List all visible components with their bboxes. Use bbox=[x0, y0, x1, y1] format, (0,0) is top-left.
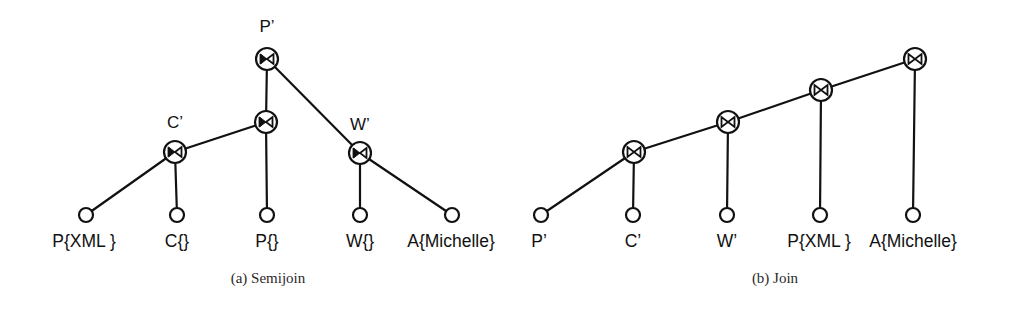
node-p-prime[interactable] bbox=[256, 48, 278, 70]
leaf-label-a-michelle: A{Michelle} bbox=[407, 231, 495, 251]
leaf-p-prime[interactable] bbox=[534, 208, 548, 222]
edge-pprime-to-wprime bbox=[267, 59, 360, 153]
leaf-a-michelle[interactable] bbox=[445, 208, 459, 222]
edge-jointop-to-a-michelle bbox=[913, 59, 915, 215]
leaf-label-c-empty: C{} bbox=[165, 231, 189, 251]
caption-semijoin: (a) Semijoin bbox=[231, 270, 306, 287]
leaf-label-c-prime: C’ bbox=[625, 231, 642, 251]
edge-join1-to-p-prime bbox=[541, 152, 634, 215]
edge-join2-to-join1 bbox=[634, 122, 728, 152]
leaf-w-empty[interactable] bbox=[353, 208, 367, 222]
node-label-p-prime: P’ bbox=[259, 17, 274, 36]
edge-join3-to-join2 bbox=[728, 90, 821, 122]
panel-semijoin-leaf-labels: P{XML } C{} P{} W{} A{Michelle} bbox=[52, 231, 495, 251]
caption-join: (b) Join bbox=[752, 270, 799, 287]
edge-cprime-to-p-xml bbox=[86, 152, 175, 215]
node-label-c-prime: C’ bbox=[167, 113, 183, 132]
node-join-2[interactable] bbox=[717, 111, 739, 133]
panel-join-edges bbox=[541, 59, 915, 215]
leaf-label-w-empty: W{} bbox=[346, 231, 374, 251]
leaf-c-prime[interactable] bbox=[626, 208, 640, 222]
panel-semijoin: P’ C’ W’ P{XML } C{} P{} W{} A{Michelle}… bbox=[52, 17, 495, 287]
leaf-label-a-michelle-b: A{Michelle} bbox=[869, 231, 957, 251]
leaf-p-empty[interactable] bbox=[260, 208, 274, 222]
panel-join-leaves bbox=[534, 208, 920, 222]
leaf-p-xml-b[interactable] bbox=[813, 208, 827, 222]
edge-join3-to-p-xml bbox=[820, 90, 821, 215]
leaf-w-prime[interactable] bbox=[720, 208, 734, 222]
edge-wprime-to-a-michelle bbox=[360, 153, 452, 215]
panel-semijoin-leaves bbox=[79, 208, 459, 222]
edge-mid-to-cprime bbox=[175, 122, 266, 152]
node-w-prime[interactable] bbox=[349, 142, 371, 164]
panel-semijoin-operators bbox=[164, 48, 371, 164]
node-join-top[interactable] bbox=[904, 48, 926, 70]
leaf-a-michelle-b[interactable] bbox=[906, 208, 920, 222]
leaf-label-p-empty: P{} bbox=[255, 231, 279, 251]
panel-join: P’ C’ W’ P{XML } A{Michelle} (b) Join bbox=[531, 48, 957, 287]
edge-mid-to-p-empty bbox=[266, 122, 267, 215]
node-join-3[interactable] bbox=[810, 79, 832, 101]
node-label-w-prime: W’ bbox=[350, 115, 370, 134]
leaf-c-empty[interactable] bbox=[170, 208, 184, 222]
node-c-prime[interactable] bbox=[164, 141, 186, 163]
edge-jointop-to-join3 bbox=[821, 59, 915, 90]
panel-join-leaf-labels: P’ C’ W’ P{XML } A{Michelle} bbox=[531, 231, 957, 251]
node-join-1[interactable] bbox=[623, 141, 645, 163]
query-plan-diagram: P’ C’ W’ P{XML } C{} P{} W{} A{Michelle}… bbox=[0, 0, 1034, 324]
leaf-label-p-prime: P’ bbox=[531, 231, 547, 251]
leaf-label-p-xml-b: P{XML } bbox=[787, 231, 851, 251]
leaf-label-w-prime: W’ bbox=[717, 231, 737, 251]
edge-join2-to-w-prime bbox=[727, 122, 728, 215]
figure-root: P’ C’ W’ P{XML } C{} P{} W{} A{Michelle}… bbox=[0, 0, 1034, 324]
leaf-label-p-xml: P{XML } bbox=[52, 231, 116, 251]
node-unlabeled-mid[interactable] bbox=[255, 111, 277, 133]
leaf-p-xml[interactable] bbox=[79, 208, 93, 222]
panel-semijoin-edges bbox=[86, 59, 452, 215]
